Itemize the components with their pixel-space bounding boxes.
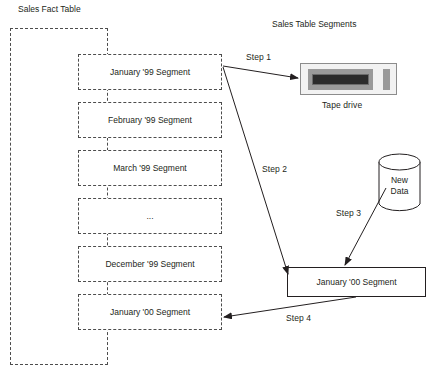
segment-box-february-99[interactable]: February '99 Segment [78,102,222,138]
step-3-label: Step 3 [336,208,361,218]
segment-box-january-99[interactable]: January '99 Segment [78,54,222,90]
new-data-label-line2: Data [378,186,421,196]
tape-drive-label: Tape drive [322,100,362,110]
step-1-label: Step 1 [246,52,271,62]
new-january-00-segment-box[interactable]: January '00 Segment [287,267,426,297]
sales-fact-table-title: Sales Fact Table [18,4,81,14]
tape-drive-bezel [308,69,373,90]
tape-drive-icon[interactable] [300,63,397,95]
new-data-cylinder-icon[interactable]: New Data [378,153,421,213]
diagram-canvas: Sales Fact Table Sales Table Segments Ja… [0,0,439,377]
step-2-label: Step 2 [262,164,287,174]
segment-label: February '99 Segment [108,115,192,125]
segment-box-march-99[interactable]: March '99 Segment [78,150,222,186]
tape-drive-indicator [383,69,390,90]
segment-label: January '99 Segment [110,67,190,77]
arrow-step-1 [223,66,298,78]
step-4-label: Step 4 [286,313,311,323]
segment-box-december-99[interactable]: December '99 Segment [78,246,222,282]
tape-drive-slot [312,74,369,85]
segment-label: January '00 Segment [110,307,190,317]
segment-label: March '99 Segment [113,163,186,173]
sales-table-segments-title: Sales Table Segments [272,19,356,29]
segment-label: December '99 Segment [105,259,194,269]
segment-box-january-00[interactable]: January '00 Segment [78,294,222,330]
new-segment-label: January '00 Segment [316,277,396,287]
segment-box-ellipsis[interactable]: ... [78,198,222,234]
new-data-label-line1: New [378,175,421,185]
segment-label: ... [146,211,153,221]
